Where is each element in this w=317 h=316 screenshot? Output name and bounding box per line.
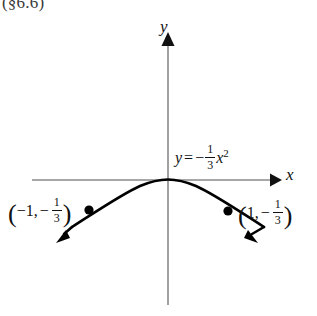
equation-minus-sign: − xyxy=(195,149,204,166)
equation-fraction: 1 3 xyxy=(205,143,215,171)
right-close-paren: ) xyxy=(284,203,293,229)
point-label-right: (1,− 1 3 ) xyxy=(238,198,292,229)
equation-fraction-denominator: 3 xyxy=(205,158,215,172)
equation-equals: = xyxy=(182,149,195,166)
right-open-paren: ( xyxy=(238,203,247,229)
right-fraction: 1 3 xyxy=(273,198,283,226)
right-x-value: 1 xyxy=(247,204,255,221)
left-close-paren: ) xyxy=(63,201,72,227)
left-fraction: 1 3 xyxy=(52,196,62,224)
left-fraction-numerator: 1 xyxy=(52,196,62,211)
equation-label: y=− 1 3 x2 xyxy=(175,143,229,171)
left-minus-sign: − xyxy=(38,202,51,219)
coordinate-plot xyxy=(0,0,317,316)
point-marker-right xyxy=(223,206,232,215)
equation-exponent: 2 xyxy=(223,147,229,159)
equation-fraction-numerator: 1 xyxy=(205,143,215,158)
y-axis-label: y xyxy=(160,18,168,35)
left-fraction-denominator: 3 xyxy=(52,211,62,225)
left-x-value: −1 xyxy=(17,202,34,219)
right-fraction-denominator: 3 xyxy=(273,213,283,227)
point-marker-left xyxy=(84,205,93,214)
left-open-paren: ( xyxy=(8,201,17,227)
x-axis-label: x xyxy=(286,166,294,183)
parabola-figure: (§6.6) y x y=− 1 3 x2 (−1,− xyxy=(0,0,317,316)
point-label-left: (−1,− 1 3 ) xyxy=(8,196,71,227)
right-fraction-numerator: 1 xyxy=(273,198,283,213)
x-axis-arrowhead xyxy=(270,174,282,187)
right-minus-sign: − xyxy=(259,204,272,221)
